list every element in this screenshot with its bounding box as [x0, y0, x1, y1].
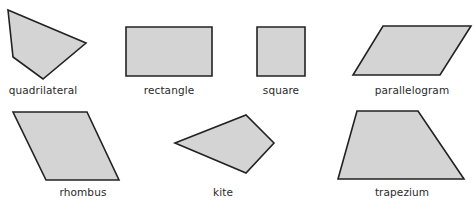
- square-shape: [257, 27, 305, 76]
- square-label: square: [263, 84, 299, 96]
- kite-label: kite: [213, 186, 233, 198]
- shapes-canvas: [0, 0, 476, 209]
- rhombus-label: rhombus: [60, 186, 107, 198]
- parallelogram-shape: [353, 26, 471, 75]
- rhombus-shape: [13, 112, 119, 180]
- parallelogram-label: parallelogram: [375, 84, 449, 96]
- quadrilateral-shape: [8, 10, 86, 79]
- rectangle-label: rectangle: [144, 84, 194, 96]
- trapezium-shape: [338, 111, 464, 179]
- kite-shape: [175, 115, 274, 173]
- rectangle-shape: [126, 27, 212, 76]
- trapezium-label: trapezium: [375, 186, 429, 198]
- quadrilateral-label: quadrilateral: [9, 84, 78, 96]
